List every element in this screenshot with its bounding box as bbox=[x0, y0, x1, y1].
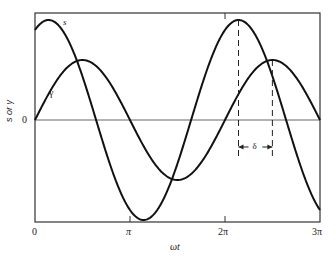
x-tick-3pi: 3π bbox=[312, 227, 322, 237]
x-tick-2pi: 2π bbox=[218, 227, 228, 237]
x-tick-0: 0 bbox=[32, 227, 37, 237]
plot-frame bbox=[35, 13, 320, 222]
delta-label: δ bbox=[252, 142, 256, 151]
y-zero-label: 0 bbox=[22, 115, 27, 125]
s-curve-label: s bbox=[63, 18, 67, 27]
gamma-curve-label: γ bbox=[49, 88, 53, 98]
x-axis-label: ωt bbox=[170, 242, 180, 252]
chart-canvas bbox=[0, 0, 336, 258]
x-tick-pi: π bbox=[126, 227, 131, 237]
y-axis-label: s or γ bbox=[4, 100, 14, 122]
